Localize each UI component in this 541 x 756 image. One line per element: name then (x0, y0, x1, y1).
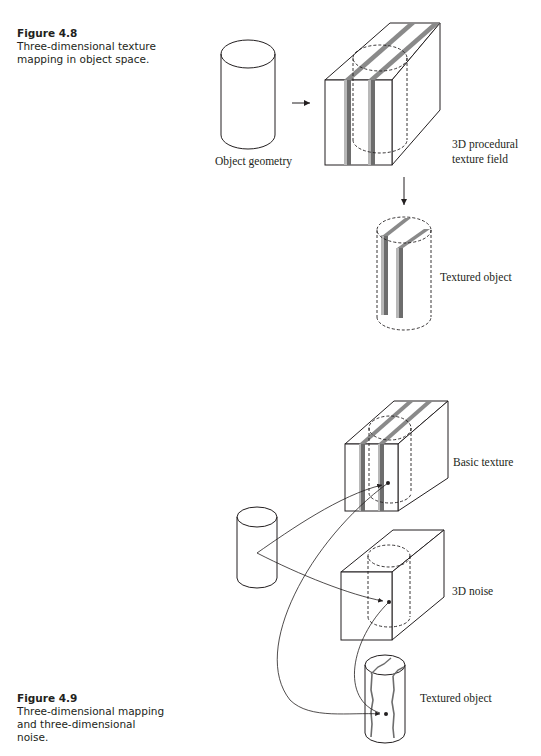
noise-box (341, 530, 444, 640)
diagram-canvas (0, 0, 541, 756)
textured-cylinder-striped (377, 217, 431, 330)
object-geometry-cylinder (221, 40, 275, 149)
textured-cylinder-noisy (365, 655, 405, 743)
texture-field-box (325, 23, 440, 165)
source-cylinder (237, 507, 277, 588)
basic-texture-box (345, 401, 448, 511)
